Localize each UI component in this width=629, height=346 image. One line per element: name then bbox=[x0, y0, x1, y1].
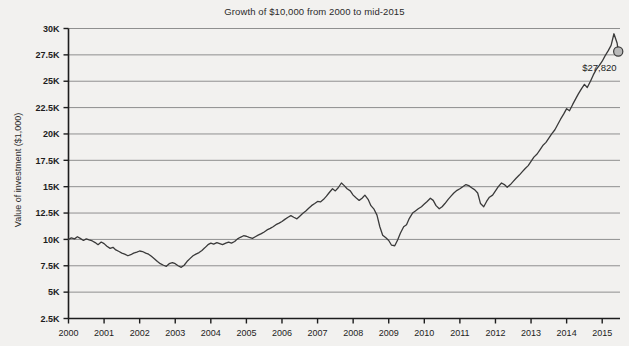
y-tick-label: 7.5K bbox=[40, 261, 60, 271]
x-tick-label: 2007 bbox=[308, 328, 328, 338]
y-tick-label: 2.5K bbox=[40, 314, 60, 324]
y-tick-label: 22.5K bbox=[35, 103, 60, 113]
x-tick-label: 2006 bbox=[272, 328, 292, 338]
value-annotation-label: $27,820 bbox=[582, 62, 616, 73]
x-tick-label: 2010 bbox=[414, 328, 434, 338]
y-tick-label: 27.5K bbox=[35, 50, 60, 60]
x-tick-label: 2002 bbox=[130, 328, 150, 338]
y-tick-label: 17.5K bbox=[35, 156, 60, 166]
x-tick-label: 2013 bbox=[521, 328, 541, 338]
x-tick-label: 2014 bbox=[557, 328, 577, 338]
y-tick-label: 20K bbox=[43, 129, 60, 139]
x-tick-label: 2001 bbox=[94, 328, 114, 338]
y-tick-label: 25K bbox=[43, 76, 60, 86]
y-tick-label: 5K bbox=[48, 287, 60, 297]
x-tick-label: 2009 bbox=[379, 328, 399, 338]
data-line-series bbox=[69, 34, 619, 268]
x-tick-label: 2003 bbox=[165, 328, 185, 338]
x-tick-label: 2004 bbox=[201, 328, 221, 338]
x-tick-label: 2008 bbox=[343, 328, 363, 338]
x-tick-label: 2012 bbox=[485, 328, 505, 338]
plot-area: 2.5K5K7.5K10K12.5K15K17.5K20K22.5K25K27.… bbox=[0, 0, 629, 346]
x-tick-label: 2000 bbox=[58, 328, 78, 338]
gridlines bbox=[69, 29, 621, 319]
x-tick-label: 2011 bbox=[450, 328, 469, 338]
y-tick-label: 15K bbox=[43, 182, 60, 192]
chart-container: Growth of $10,000 from 2000 to mid-2015 … bbox=[0, 0, 629, 346]
endpoint-marker bbox=[614, 47, 623, 56]
x-tick-label: 2015 bbox=[592, 328, 612, 338]
y-tick-label: 12.5K bbox=[35, 208, 60, 218]
y-axis-ticks: 2.5K5K7.5K10K12.5K15K17.5K20K22.5K25K27.… bbox=[35, 24, 68, 324]
x-tick-label: 2005 bbox=[236, 328, 256, 338]
y-tick-label: 10K bbox=[43, 235, 60, 245]
x-axis-ticks: 2000200120022003200420052006200720082009… bbox=[58, 319, 612, 338]
y-tick-label: 30K bbox=[43, 24, 60, 34]
